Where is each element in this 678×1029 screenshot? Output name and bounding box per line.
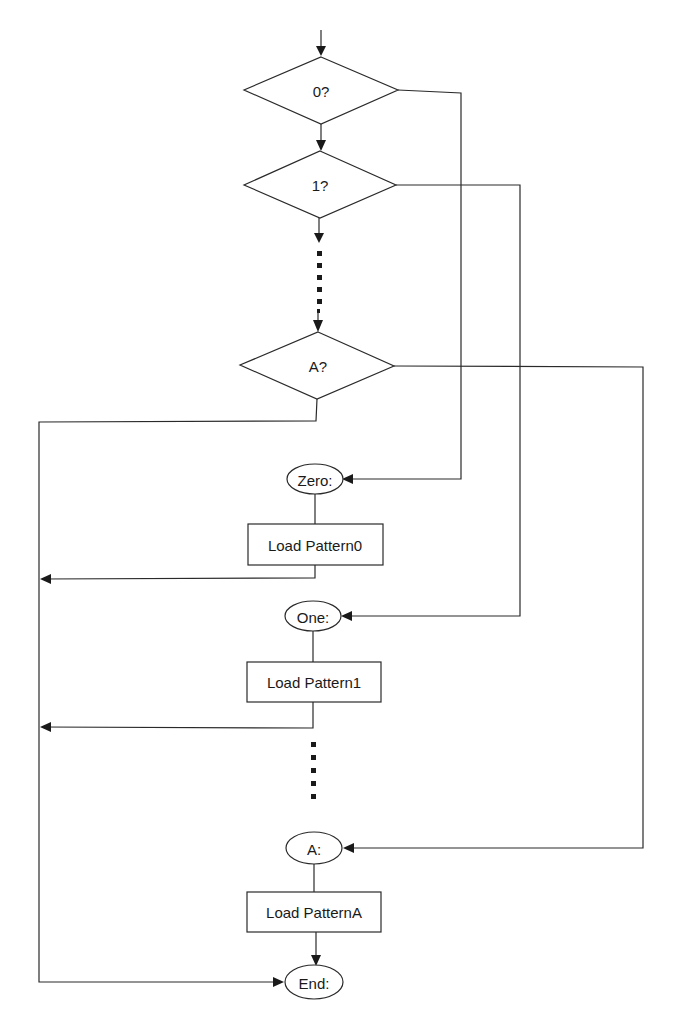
connector-p0-to-end [42, 565, 315, 579]
process-p0-text: Load Pattern0 [268, 538, 362, 553]
arrow-to-one [341, 611, 352, 621]
process-pA-text: Load PatternA [266, 905, 362, 920]
arrow-d0-to-d1 [316, 124, 326, 151]
decision-A-label: A? [309, 359, 327, 374]
connector-d0-yes [344, 90, 461, 479]
arrow-d1-continuation [314, 218, 324, 243]
connector-dA-yes [345, 366, 643, 848]
arrow-to-dA [313, 312, 323, 332]
arrow-p0-return [40, 574, 51, 584]
arrow-to-end [273, 977, 284, 987]
arrow-to-a [343, 843, 354, 853]
ellipsis-dots-bottom [311, 742, 316, 799]
entry-arrow [316, 30, 326, 56]
arrow-to-zero [342, 474, 353, 484]
flowchart-canvas [0, 0, 678, 1029]
label-one-text: One: [297, 610, 330, 625]
arrow-p1-return [40, 722, 51, 732]
arrow-pA-to-end [311, 932, 321, 966]
decision-1-label: 1? [312, 178, 329, 193]
label-zero-text: Zero: [297, 473, 332, 488]
label-end-text: End: [299, 976, 330, 991]
connector-p1-to-end [42, 702, 313, 728]
decision-0-label: 0? [313, 84, 330, 99]
label-a-text: A: [307, 842, 321, 857]
process-p1-text: Load Pattern1 [267, 675, 361, 690]
ellipsis-dots-top [317, 251, 322, 313]
